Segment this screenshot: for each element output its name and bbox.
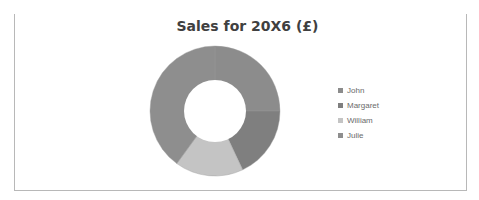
legend-swatch (338, 118, 343, 123)
legend-item-john: John (338, 83, 379, 98)
legend: John Margaret William Julie (338, 83, 379, 143)
legend-item-william: William (338, 113, 379, 128)
legend-item-julie: Julie (338, 128, 379, 143)
legend-swatch (338, 88, 343, 93)
donut-hole (184, 80, 246, 142)
donut-chart (0, 0, 479, 200)
legend-swatch (338, 133, 343, 138)
legend-swatch (338, 103, 343, 108)
legend-item-margaret: Margaret (338, 98, 379, 113)
